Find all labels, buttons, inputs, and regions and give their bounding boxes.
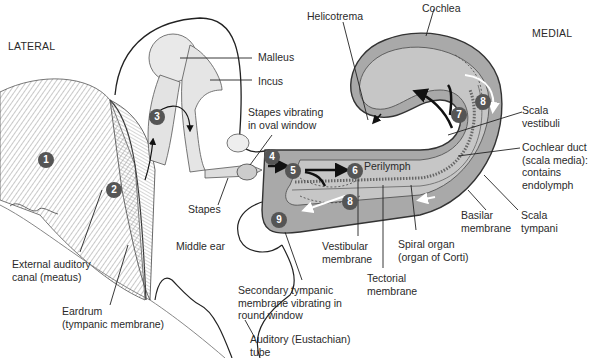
incus-label: Incus <box>258 75 283 88</box>
cochlea-shape <box>262 33 502 233</box>
stapes-label: Stapes <box>188 203 221 216</box>
ossicles <box>145 34 262 180</box>
step-marker-1: 1 <box>38 152 54 168</box>
cochlea-label: Cochlea <box>422 2 461 15</box>
step-marker-5: 5 <box>285 163 301 179</box>
vestibular-membrane-label: Vestibular membrane <box>322 240 372 265</box>
malleus-label: Malleus <box>258 51 294 64</box>
spiral-organ-label: Spiral organ (organ of Corti) <box>398 238 469 263</box>
step-marker-8: 8 <box>342 194 358 210</box>
step-marker-7: 7 <box>451 107 467 123</box>
basilar-membrane-label: Basilar membrane <box>461 209 511 234</box>
lateral-label: LATERAL <box>8 40 55 53</box>
tectorial-membrane-label: Tectorial membrane <box>367 272 417 297</box>
perilymph-label: Perilymph <box>364 160 411 173</box>
medial-label: MEDIAL <box>532 27 572 40</box>
ear-diagram: 1234567889 LATERAL MEDIAL Malleus Incus … <box>0 0 594 358</box>
step-marker-9: 9 <box>271 212 287 228</box>
stapes-vibrating-label: Stapes vibrating in oval window <box>248 106 323 131</box>
step-marker-2: 2 <box>106 182 122 198</box>
scala-vestibuli-label: Scala vestibuli <box>522 104 560 129</box>
step-marker-8: 8 <box>475 94 491 110</box>
eardrum-label: Eardrum (tympanic membrane) <box>62 305 164 330</box>
scala-tympani-label: Scala tympani <box>521 209 558 234</box>
secondary-tympanic-label: Secondary tympanic membrane vibrating in… <box>238 284 342 322</box>
auditory-tube-label: Auditory (Eustachian) tube <box>250 333 350 358</box>
helicotrema-label: Helicotrema <box>307 10 363 23</box>
step-marker-3: 3 <box>149 109 165 125</box>
middle-ear-label: Middle ear <box>176 240 225 253</box>
external-canal-label: External auditory canal (meatus) <box>12 258 91 283</box>
step-marker-6: 6 <box>347 163 363 179</box>
cochlear-duct-label: Cochlear duct (scala media): contains en… <box>522 141 588 191</box>
step-marker-4: 4 <box>264 149 280 165</box>
